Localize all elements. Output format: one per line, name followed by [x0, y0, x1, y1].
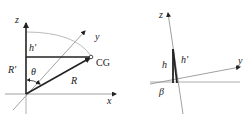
x-axis-label: x	[106, 95, 112, 106]
y-axis-label: y	[94, 31, 100, 42]
theta-arc-start-arrow	[27, 78, 30, 82]
right-diagram: z y h h' β	[150, 9, 243, 114]
diagram-canvas: z x y h' R' θ R CG z y h h' β	[0, 0, 247, 124]
cg-label: CG	[96, 57, 110, 68]
y-axis-label: y	[237, 55, 243, 66]
r-prime-label: R'	[7, 64, 17, 75]
h-prime-label: h'	[181, 54, 189, 65]
z-axis-label: z	[14, 14, 19, 25]
theta-label: θ	[31, 66, 36, 77]
y-axis	[13, 31, 85, 110]
beta-label: β	[158, 86, 164, 97]
h-label: h	[162, 59, 167, 70]
z-axis-label: z	[158, 9, 163, 20]
cg-point	[89, 55, 93, 59]
r-label: R	[70, 75, 77, 86]
left-diagram: z x y h' R' θ R CG	[5, 14, 116, 114]
h-prime-label: h'	[29, 42, 37, 53]
